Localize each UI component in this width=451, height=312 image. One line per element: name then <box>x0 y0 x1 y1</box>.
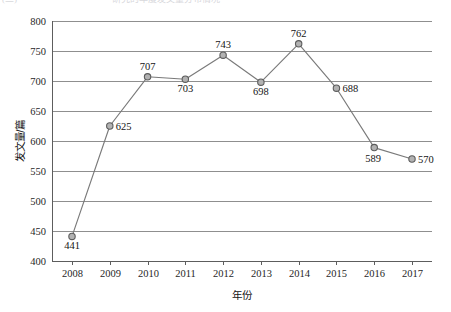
data-point-label-2011: 703 <box>177 83 193 94</box>
x-tick-label-2015: 2015 <box>326 268 347 279</box>
x-axis-title: 年份 <box>232 289 253 301</box>
data-markers-group <box>69 41 415 240</box>
x-tick-label-2013: 2013 <box>251 268 272 279</box>
data-point-labels-group: 441625707703743698762688589570 <box>64 28 434 252</box>
x-tick-label-2014: 2014 <box>289 268 311 279</box>
x-tick-label-2011: 2011 <box>175 268 196 279</box>
y-tick-label-550: 550 <box>30 166 46 177</box>
x-tick-label-2016: 2016 <box>364 268 385 279</box>
y-axis-title: 发文量/篇 <box>14 120 26 163</box>
data-point-label-2017: 570 <box>418 154 434 165</box>
y-tick-label-750: 750 <box>30 46 46 57</box>
data-marker-2014 <box>295 41 301 47</box>
data-marker-2010 <box>144 74 150 80</box>
y-tick-labels-group: 800750700650600550500450400 <box>30 16 46 267</box>
data-point-label-2010: 707 <box>140 61 156 72</box>
data-marker-2012 <box>220 52 226 58</box>
data-marker-2011 <box>182 76 188 82</box>
y-tick-label-450: 450 <box>30 226 46 237</box>
y-tick-label-500: 500 <box>30 196 46 207</box>
x-tick-label-2017: 2017 <box>402 268 423 279</box>
series-polyline-发文量 <box>72 44 412 237</box>
y-tick-label-700: 700 <box>30 76 46 87</box>
data-marker-2013 <box>258 79 264 85</box>
y-tick-label-600: 600 <box>30 136 46 147</box>
data-marker-2009 <box>107 123 113 129</box>
data-point-label-2016: 589 <box>365 153 381 164</box>
data-point-label-2013: 698 <box>253 86 269 97</box>
data-marker-2017 <box>409 156 415 162</box>
y-tick-label-650: 650 <box>30 106 46 117</box>
x-tick-label-2009: 2009 <box>100 268 121 279</box>
data-point-label-2009: 625 <box>116 121 132 132</box>
data-series-line <box>72 44 412 237</box>
x-tick-label-2012: 2012 <box>213 268 234 279</box>
y-tick-label-400: 400 <box>30 256 46 267</box>
x-tick-label-2010: 2010 <box>138 268 159 279</box>
chart-svg: 800750700650600550500450400 200820092010… <box>0 0 451 312</box>
data-marker-2016 <box>371 144 377 150</box>
data-point-label-2008: 441 <box>64 240 80 251</box>
data-point-label-2014: 762 <box>291 28 307 39</box>
x-tick-label-2008: 2008 <box>62 268 83 279</box>
data-point-label-2015: 688 <box>342 83 358 94</box>
gridlines-group <box>52 22 432 262</box>
x-tick-labels-group: 2008200920102011201220132014201520162017 <box>62 268 423 279</box>
line-chart: 800750700650600550500450400 200820092010… <box>0 0 451 312</box>
data-point-label-2012: 743 <box>215 39 231 50</box>
data-marker-2015 <box>333 85 339 91</box>
data-marker-2008 <box>69 233 75 239</box>
y-tick-label-800: 800 <box>30 16 46 27</box>
